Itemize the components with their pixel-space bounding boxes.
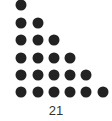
dot xyxy=(33,35,44,46)
dot xyxy=(65,53,76,64)
dot xyxy=(33,70,44,81)
dot xyxy=(65,70,76,81)
dot xyxy=(65,87,76,98)
dot xyxy=(49,70,60,81)
total-label: 21 xyxy=(49,103,63,118)
dot xyxy=(16,70,27,81)
dot xyxy=(16,18,27,29)
dot xyxy=(16,87,27,98)
dot xyxy=(33,18,44,29)
dot xyxy=(81,87,92,98)
dot xyxy=(49,53,60,64)
dot xyxy=(33,53,44,64)
dot xyxy=(16,0,27,11)
dot xyxy=(81,70,92,81)
dot xyxy=(49,87,60,98)
dot xyxy=(98,87,109,98)
dot xyxy=(16,35,27,46)
dot xyxy=(16,53,27,64)
dot xyxy=(49,35,60,46)
dot xyxy=(33,87,44,98)
